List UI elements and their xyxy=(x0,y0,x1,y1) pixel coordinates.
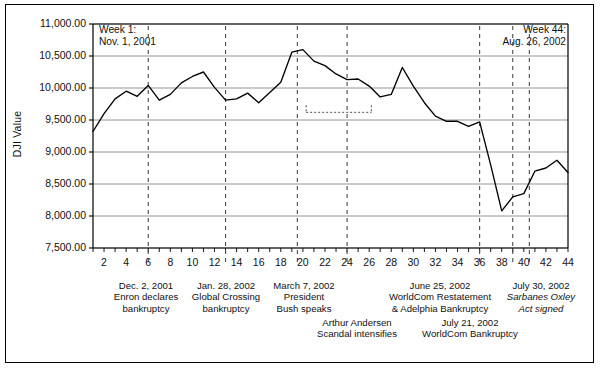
annotation-line3: bankruptcy xyxy=(192,303,260,314)
annotation-global-crossing: Jan. 28, 2002 Global Crossing bankruptcy xyxy=(192,280,260,314)
annotation-line2: WorldCom Restatement xyxy=(389,291,491,302)
x-axis-tick-label: 6 xyxy=(145,256,151,268)
annotation-line3: Scandal intensifies xyxy=(317,328,397,339)
x-axis-tick-label: 10 xyxy=(187,256,199,268)
x-axis-tick-label: 14 xyxy=(231,256,243,268)
annotation-line3: Bush speaks xyxy=(273,303,334,314)
annotation-line2: WorldCom Bankruptcy xyxy=(422,328,518,339)
annotation-date: March 7, 2002 xyxy=(273,280,334,291)
annotation-date: June 25, 2002 xyxy=(389,280,491,291)
x-axis-tick-label: 24 xyxy=(341,256,353,268)
annotation-date: Dec. 2, 2001 xyxy=(114,280,179,291)
axis-lines xyxy=(89,24,568,248)
annotation-line3: bankruptcy xyxy=(114,303,179,314)
x-axis-tick-label: 18 xyxy=(275,256,287,268)
x-axis-tick-label: 4 xyxy=(123,256,129,268)
annotation-date: July 21, 2002 xyxy=(422,317,518,328)
x-axis-tick-label: 28 xyxy=(385,256,397,268)
x-axis-tick-label: 34 xyxy=(452,256,464,268)
x-axis-tick-label: 16 xyxy=(253,256,265,268)
x-axis-tick-label: 36 xyxy=(474,256,486,268)
x-axis-ticks xyxy=(93,248,568,252)
annotation-enron: Dec. 2, 2001 Enron declares bankruptcy xyxy=(114,280,179,314)
annotation-line2: Arthur Andersen xyxy=(317,317,397,328)
dji-line-chart: DJI Value 11,000.00 10,500.00 10,000.00 … xyxy=(0,0,600,368)
annotation-line3: Act signed xyxy=(507,303,575,314)
annotation-worldcom-restatement: June 25, 2002 WorldCom Restatement & Ade… xyxy=(389,280,491,314)
annotation-line3: & Adelphia Bankruptcy xyxy=(389,303,491,314)
annotation-line2: Global Crossing xyxy=(192,291,260,302)
annotation-line2: Sarbanes Oxley xyxy=(507,291,575,302)
annotation-date: Jan. 28, 2002 xyxy=(192,280,260,291)
x-axis-tick-label: 8 xyxy=(167,256,173,268)
x-axis-tick-label: 38 xyxy=(496,256,508,268)
annotation-date: July 30, 2002 xyxy=(507,280,575,291)
x-axis-tick-label: 2 xyxy=(101,256,107,268)
x-axis-tick-label: 40 xyxy=(518,256,530,268)
event-marker-lines xyxy=(148,26,529,266)
x-axis-tick-label: 20 xyxy=(297,256,309,268)
annotation-sarbanes-oxley: July 30, 2002 Sarbanes Oxley Act signed xyxy=(507,280,575,314)
x-axis-tick-label: 44 xyxy=(562,256,574,268)
x-axis-tick-label: 32 xyxy=(430,256,442,268)
x-axis-tick-label: 12 xyxy=(209,256,221,268)
annotation-worldcom-bankruptcy: July 21, 2002 WorldCom Bankruptcy xyxy=(422,317,518,340)
x-axis-tick-label: 30 xyxy=(408,256,420,268)
x-axis-tick-label: 22 xyxy=(319,256,331,268)
bracket-connector xyxy=(306,105,371,112)
annotation-line2: President xyxy=(273,291,334,302)
gridlines xyxy=(93,24,568,248)
x-axis-tick-label: 42 xyxy=(540,256,552,268)
annotation-line2: Enron declares xyxy=(114,291,179,302)
x-axis-tick-label: 26 xyxy=(363,256,375,268)
annotation-bush: March 7, 2002 President Bush speaks xyxy=(273,280,334,314)
dji-series-line xyxy=(93,50,568,211)
annotation-andersen: Arthur Andersen Scandal intensifies xyxy=(317,317,397,340)
